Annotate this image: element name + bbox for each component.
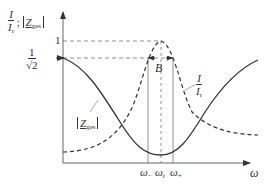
impedance-label-sub: ges	[86, 123, 95, 131]
y-tick-inv-sqrt2: 1 √2	[26, 46, 38, 72]
x-tick-omega-minus: ω−	[140, 167, 152, 180]
x-tick-omega-minus-symbol: ω	[140, 166, 148, 178]
x-tick-omega-r-sub: r	[163, 172, 165, 180]
x-tick-omega-plus-sub: +	[178, 172, 182, 180]
impedance-label-abs: Zges	[77, 117, 98, 129]
current-label-leader	[185, 85, 195, 90]
x-tick-omega-plus-symbol: ω	[170, 166, 178, 178]
x-axis-label: ω	[250, 167, 258, 179]
y-axis-label-abs-sub: ges	[32, 22, 41, 30]
y-tick-one: 1	[55, 35, 61, 46]
current-ratio-label-den: Ir	[196, 85, 202, 102]
current-ratio-label-fraction: I Ir	[196, 72, 202, 102]
y-axis-label-num: I	[8, 8, 14, 21]
impedance-label: Zges	[77, 118, 98, 131]
y-axis-label-fraction: I Ir	[8, 8, 14, 38]
x-tick-omega-minus-sub: −	[148, 172, 152, 180]
y-tick-inv-sqrt2-num: 1	[28, 46, 36, 59]
current-ratio-label-den-sub: r	[200, 91, 202, 99]
guide-lines	[63, 41, 175, 163]
y-tick-inv-sqrt2-fraction: 1 √2	[26, 46, 38, 72]
y-axis-label-den-sub: r	[12, 27, 14, 35]
x-tick-omega-plus: ω+	[170, 167, 182, 180]
x-tick-omega-r: ωr	[155, 167, 165, 180]
x-tick-omega-r-symbol: ω	[155, 166, 163, 178]
y-axis-label-abs: Zges	[23, 16, 44, 28]
bandwidth-label: B	[155, 62, 162, 74]
impedance-label-leader	[90, 100, 98, 112]
current-ratio-label: I Ir	[196, 72, 202, 102]
y-axis-label-separator: ;	[17, 16, 20, 28]
current-ratio-label-num: I	[196, 72, 202, 85]
y-axis-label-den: Ir	[8, 21, 14, 38]
y-tick-inv-sqrt2-den: √2	[26, 59, 38, 72]
y-axis-label: I Ir ; Zges	[8, 8, 44, 38]
